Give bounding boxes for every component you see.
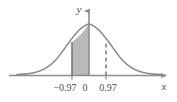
- shaded-area: [72, 24, 89, 75]
- tick-label-minus-097: −0.97: [53, 82, 76, 93]
- x-axis-label: x: [161, 80, 167, 92]
- tick-label-zero: 0: [83, 82, 88, 93]
- chart-canvas: y x −0.97 0 0.97: [0, 0, 177, 102]
- y-axis-label: y: [76, 3, 82, 15]
- normal-curve-figure: y x −0.97 0 0.97: [0, 0, 177, 102]
- tick-label-plus-097: 0.97: [99, 82, 117, 93]
